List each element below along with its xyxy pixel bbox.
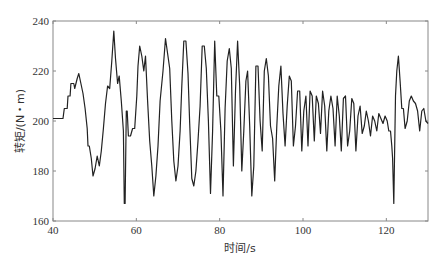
x-tick-label: 100 xyxy=(295,224,312,236)
y-tick-label: 180 xyxy=(33,165,50,177)
y-tick-label: 220 xyxy=(33,65,50,77)
x-axis-title: 时间/s xyxy=(224,242,256,255)
x-tick-label: 80 xyxy=(214,224,226,236)
torque-line xyxy=(53,31,428,204)
torque-time-chart: 160180200220240 406080100120 时间/s 转矩/(N・… xyxy=(0,0,445,265)
x-tick-label: 40 xyxy=(48,224,60,236)
x-tick-label: 120 xyxy=(378,224,395,236)
y-axis-title: 转矩/(N・m) xyxy=(13,89,27,153)
y-tick-label: 200 xyxy=(33,115,50,127)
y-tick-label: 240 xyxy=(33,15,50,27)
x-tick-label: 60 xyxy=(131,224,143,236)
